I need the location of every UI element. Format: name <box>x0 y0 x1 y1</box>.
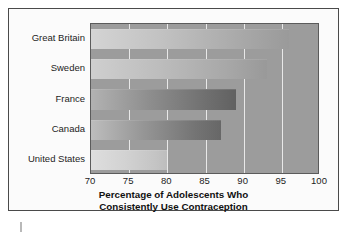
x-tick-80: 80 <box>161 176 172 186</box>
chart-title: Percentage of Adolescents Who Consistent… <box>9 189 338 212</box>
plot-area <box>90 23 319 174</box>
x-axis-tick-labels: 707580859095100 <box>90 176 319 190</box>
y-label-france: France <box>55 94 85 104</box>
x-tick-75: 75 <box>123 176 134 186</box>
bar-sweden <box>91 59 267 79</box>
bar-row <box>91 150 319 170</box>
x-tick-70: 70 <box>85 176 96 186</box>
x-tick-95: 95 <box>276 176 287 186</box>
x-tick-90: 90 <box>237 176 248 186</box>
y-label-united-states: United States <box>28 154 85 164</box>
chart-figure: Great BritainSwedenFranceCanadaUnited St… <box>8 8 339 211</box>
bar-row <box>91 89 319 109</box>
chart-title-line-1: Percentage of Adolescents Who <box>9 189 338 201</box>
bar-united-states <box>91 150 167 170</box>
bar-canada <box>91 120 221 140</box>
scan-artifact-mark <box>20 222 22 232</box>
bar-row <box>91 120 319 140</box>
bar-great-britain <box>91 29 289 49</box>
bar-row <box>91 29 319 49</box>
bar-row <box>91 59 319 79</box>
chart-title-line-2: Consistently Use Contraception <box>9 201 338 213</box>
y-axis-category-labels: Great BritainSwedenFranceCanadaUnited St… <box>9 23 85 174</box>
x-tick-100: 100 <box>311 176 327 186</box>
y-label-great-britain: Great Britain <box>32 33 85 43</box>
y-label-canada: Canada <box>52 124 85 134</box>
bar-france <box>91 89 236 109</box>
x-tick-85: 85 <box>199 176 210 186</box>
y-label-sweden: Sweden <box>51 63 85 73</box>
